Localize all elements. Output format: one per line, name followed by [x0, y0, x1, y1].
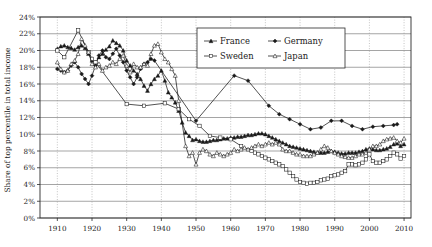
series-marker [316, 180, 319, 183]
x-tick-label: 1980 [291, 224, 310, 233]
x-tick-label: 1920 [83, 224, 102, 233]
x-tick-label: 1940 [152, 224, 171, 233]
series-marker [94, 61, 97, 64]
chart-container: 0%2%4%6%8%10%12%14%16%18%20%22%24% 19101… [0, 0, 432, 247]
series-marker [336, 173, 339, 176]
x-tick-label: 1910 [48, 224, 67, 233]
series-marker [375, 161, 378, 164]
series-marker [219, 136, 222, 139]
legend-marker-icon [209, 54, 212, 57]
series-marker [208, 134, 211, 137]
x-tick-label: 1930 [118, 224, 137, 233]
series-marker [288, 171, 291, 174]
series-marker [229, 138, 232, 141]
series-marker [291, 174, 294, 177]
series-marker [333, 174, 336, 177]
series-marker [312, 181, 315, 184]
series-marker [354, 164, 357, 167]
y-tick-label: 12% [19, 113, 35, 122]
series-marker [371, 159, 374, 162]
y-tick-label: 18% [19, 63, 35, 72]
y-tick-label: 10% [19, 130, 35, 139]
legend-label: Germany [284, 36, 323, 46]
series-marker [257, 153, 260, 156]
income-share-line-chart: 0%2%4%6%8%10%12%14%16%18%20%22%24% 19101… [0, 0, 432, 247]
series-marker [364, 158, 367, 161]
series-marker [330, 174, 333, 177]
chart-legend: FranceGermanySwedenJapan [197, 28, 345, 68]
series-marker [260, 154, 263, 157]
series-marker [187, 117, 190, 120]
series-marker [295, 178, 298, 181]
y-axis-title: Share of top percentile in total income [3, 48, 12, 193]
y-tick-label: 2% [24, 197, 36, 206]
series-marker [76, 29, 79, 32]
y-tick-label: 4% [24, 180, 36, 189]
x-tick-label: 1970 [256, 224, 275, 233]
series-marker [361, 161, 364, 164]
series-marker [392, 151, 395, 154]
x-tick-label: 1950 [187, 224, 206, 233]
series-marker [399, 157, 402, 160]
series-marker [385, 158, 388, 161]
series-marker [340, 171, 343, 174]
series-marker [274, 161, 277, 164]
y-tick-label: 14% [19, 96, 35, 105]
series-marker [278, 163, 281, 166]
y-tick-label: 24% [19, 13, 35, 22]
legend-label: Sweden [220, 51, 254, 61]
series-marker [395, 153, 398, 156]
series-marker [309, 181, 312, 184]
legend-label: France [220, 36, 250, 46]
x-tick-label: 1990 [326, 224, 345, 233]
series-marker [281, 164, 284, 167]
y-tick-label: 6% [24, 163, 36, 172]
series-marker [402, 154, 405, 157]
series-marker [357, 163, 360, 166]
legend-label: Japan [283, 51, 309, 61]
y-tick-label: 22% [19, 29, 35, 38]
series-marker [388, 154, 391, 157]
series-marker [264, 156, 267, 159]
series-marker [302, 181, 305, 184]
legend-box [197, 28, 345, 68]
series-marker [323, 178, 326, 181]
series-marker [198, 124, 201, 127]
series-marker [271, 159, 274, 162]
y-tick-label: 16% [19, 80, 35, 89]
series-marker [378, 161, 381, 164]
series-marker [298, 180, 301, 183]
series-marker [56, 49, 59, 52]
series-marker [253, 151, 256, 154]
y-tick-label: 20% [19, 46, 35, 55]
x-tick-label: 1960 [222, 224, 241, 233]
series-marker [382, 159, 385, 162]
series-marker [284, 168, 287, 171]
series-marker [142, 104, 145, 107]
series-marker [347, 163, 350, 166]
series-marker [343, 169, 346, 172]
series-marker [326, 177, 329, 180]
series-marker [305, 182, 308, 185]
series-marker [163, 102, 166, 105]
series-marker [63, 56, 66, 59]
y-tick-label: 8% [24, 147, 36, 156]
x-tick-label: 2010 [395, 224, 414, 233]
series-marker [350, 163, 353, 166]
series-marker [125, 102, 128, 105]
series-marker [319, 179, 322, 182]
y-tick-label: 0% [24, 214, 36, 223]
x-tick-label: 2000 [360, 224, 379, 233]
series-marker [267, 158, 270, 161]
